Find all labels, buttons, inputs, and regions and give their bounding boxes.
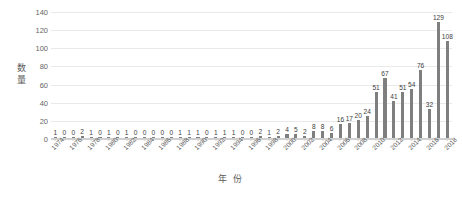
bar-slot: 2 (78, 12, 87, 138)
bar-slot: 0 (167, 12, 176, 138)
bar-slot: 2 (300, 12, 309, 138)
bar-value-label: 6 (330, 125, 334, 133)
bar-slot: 108 (443, 12, 452, 138)
bar-slot: 1 (51, 12, 60, 138)
y-tick-label: 80 (40, 62, 48, 71)
bar-slot: 67 (381, 12, 390, 138)
bar-slot: 1 (211, 12, 220, 138)
bar[interactable]: 129 (437, 22, 440, 138)
bar-slot: 0 (131, 12, 140, 138)
bar-value-label: 0 (205, 129, 209, 137)
bar-value-label: 8 (312, 123, 316, 131)
bar[interactable]: 76 (419, 70, 422, 138)
bar[interactable]: 24 (366, 116, 369, 138)
bar-value-label: 16 (337, 116, 344, 124)
bar-slot: 1 (185, 12, 194, 138)
bar-value-label: 1 (214, 129, 218, 137)
bar-value-label: 24 (364, 108, 371, 116)
bar-slot: 32 (425, 12, 434, 138)
bar[interactable]: 41 (392, 101, 395, 138)
bar-value-label: 1 (107, 129, 111, 137)
bar-value-label: 1 (196, 129, 200, 137)
bar-value-label: 0 (160, 129, 164, 137)
plot-area: 1002101010000011101110021245288616172024… (51, 12, 452, 139)
bar-value-label: 0 (134, 129, 138, 137)
bar-value-label: 41 (390, 93, 397, 101)
bar[interactable]: 20 (357, 120, 360, 138)
bar[interactable]: 51 (401, 92, 404, 138)
bar[interactable]: 108 (446, 41, 449, 138)
bar-value-label: 2 (258, 128, 262, 136)
bar-value-label: 54 (408, 81, 415, 89)
bar[interactable]: 32 (428, 109, 431, 138)
bar-slot: 0 (158, 12, 167, 138)
bar-slot: 8 (309, 12, 318, 138)
bar-value-label: 0 (71, 129, 75, 137)
bar-value-label: 8 (321, 123, 325, 131)
bar-value-label: 1 (223, 129, 227, 137)
bar[interactable]: 67 (383, 78, 386, 138)
bar-slot: 51 (372, 12, 381, 138)
bar-slot: 8 (318, 12, 327, 138)
bar[interactable]: 51 (375, 92, 378, 138)
bar[interactable]: 17 (348, 123, 351, 138)
bar-slot: 2 (274, 12, 283, 138)
bar-value-label: 1 (125, 129, 129, 137)
bar-slot: 1 (176, 12, 185, 138)
bar-value-label: 0 (169, 129, 173, 137)
bar-slot: 0 (60, 12, 69, 138)
bar-slot: 1 (194, 12, 203, 138)
y-tick-label: 40 (40, 98, 48, 107)
bar-value-label: 1 (178, 129, 182, 137)
x-axis-title: 年 份 (0, 172, 462, 185)
y-tick-label: 0 (44, 135, 48, 144)
bar-slot: 0 (238, 12, 247, 138)
bar-value-label: 5 (294, 126, 298, 134)
bar-slot: 54 (407, 12, 416, 138)
bar[interactable]: 16 (339, 124, 342, 138)
bar[interactable]: 54 (410, 89, 413, 138)
bar-slot: 1 (229, 12, 238, 138)
bar-value-label: 1 (89, 129, 93, 137)
bar-slot: 5 (291, 12, 300, 138)
bar-value-label: 1 (267, 129, 271, 137)
bar-slot: 1 (122, 12, 131, 138)
y-tick-label: 140 (35, 8, 48, 17)
bar-value-label: 76 (417, 62, 424, 70)
bar-value-label: 4 (285, 126, 289, 134)
bar[interactable]: 8 (321, 131, 324, 138)
bar-value-label: 0 (63, 129, 67, 137)
bar-value-label: 1 (232, 129, 236, 137)
bar-slot: 0 (247, 12, 256, 138)
bar-value-label: 0 (116, 129, 120, 137)
bar-value-label: 32 (426, 101, 433, 109)
y-tick-label: 60 (40, 80, 48, 89)
bar-slot: 2 (256, 12, 265, 138)
bar-slot: 0 (69, 12, 78, 138)
bar-slot: 0 (202, 12, 211, 138)
bar-slot: 1 (265, 12, 274, 138)
bar-slot: 0 (113, 12, 122, 138)
bar-value-label: 1 (54, 129, 58, 137)
bar-value-label: 17 (346, 115, 353, 123)
bar-slot: 0 (96, 12, 105, 138)
bar-value-label: 108 (442, 33, 453, 41)
bar-slot: 1 (87, 12, 96, 138)
bar-value-label: 2 (80, 128, 84, 136)
bar-series: 1002101010000011101110021245288616172024… (51, 12, 452, 138)
bar-slot: 6 (327, 12, 336, 138)
bar-slot: 17 (345, 12, 354, 138)
bar-chart: 数 量 020406080100120140 10021010100000111… (0, 0, 462, 197)
bar-value-label: 0 (250, 129, 254, 137)
y-tick-label: 20 (40, 116, 48, 125)
y-tick-label: 100 (35, 44, 48, 53)
bar-slot: 0 (149, 12, 158, 138)
bar-value-label: 0 (152, 129, 156, 137)
bar-value-label: 51 (399, 84, 406, 92)
bar-slot: 41 (389, 12, 398, 138)
bar-value-label: 67 (381, 70, 388, 78)
bar-slot: 129 (434, 12, 443, 138)
bar-value-label: 2 (276, 128, 280, 136)
bar-value-label: 51 (372, 84, 379, 92)
bar-slot: 20 (354, 12, 363, 138)
